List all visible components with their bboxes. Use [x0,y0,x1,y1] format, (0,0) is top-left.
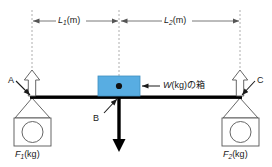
dimension-label-right: L2(m) [164,16,186,25]
leader-line-b [104,99,117,113]
weight-right-hanger [223,98,258,118]
dimension-label-right-subscript: 2 [169,19,173,26]
point-label-a: A [8,76,14,85]
pivot-dot-icon [116,83,122,89]
weight-right [222,98,259,146]
dimension-label-left-unit: (m) [67,15,81,25]
weight-right-body [222,118,259,146]
force-label-right-symbol: F [223,149,229,159]
force-label-right-subscript: 2 [229,153,233,160]
weight-left-body [14,118,51,146]
force-label-right: F2(kg) [223,150,248,159]
weight-left [14,98,51,146]
diagram-canvas [0,0,272,167]
weight-left-hanger [15,98,50,118]
point-label-b: B [93,114,99,123]
force-label-left: F1(kg) [15,150,40,159]
load-label-unit: (kg) [172,80,188,90]
force-label-left-subscript: 1 [21,153,25,160]
dimension-label-left-subscript: 1 [63,19,67,26]
dimension-label-left: L1(m) [58,16,80,25]
load-label-suffix: の箱 [187,80,205,90]
force-label-left-unit: (kg) [24,149,40,159]
down-arrow-head [113,139,126,152]
dimension-label-right-unit: (m) [173,15,187,25]
load-box [98,76,140,96]
point-label-c: C [257,76,264,85]
load-label-symbol: W [163,80,172,90]
physics-diagram: L1(m) L2(m) A B C W(kg)の箱 F1(kg) F2(kg) [0,0,272,167]
force-label-left-symbol: F [15,149,21,159]
force-label-right-unit: (kg) [232,149,248,159]
load-label: W(kg)の箱 [163,81,205,90]
